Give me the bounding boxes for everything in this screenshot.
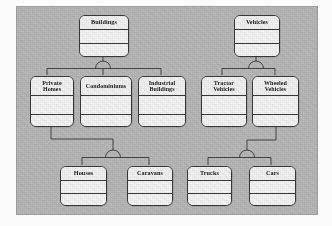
uml-class-houses[interactable]: Houses	[60, 166, 107, 206]
class-operations-compartment	[31, 115, 73, 126]
class-attributes-compartment	[80, 30, 128, 44]
class-attributes-compartment	[188, 181, 231, 194]
class-title: Condominiums	[81, 77, 131, 96]
class-attributes-compartment	[61, 181, 106, 194]
uml-class-buildings[interactable]: Buildings	[79, 15, 129, 57]
uml-class-private-homes[interactable]: PrivateHomes	[30, 76, 74, 127]
class-attributes-compartment	[235, 30, 279, 44]
uml-class-cars[interactable]: Cars	[249, 166, 296, 206]
class-title: Caravans	[128, 167, 172, 181]
uml-class-trucks[interactable]: Trucks	[187, 166, 232, 206]
uml-class-condominiums[interactable]: Condominiums	[80, 76, 132, 127]
class-attributes-compartment	[31, 96, 73, 115]
diagram-panel: Buildings Vehicles PrivateHomes Condomin…	[16, 6, 318, 215]
class-attributes-compartment	[250, 181, 295, 194]
class-attributes-compartment	[253, 96, 298, 115]
generalization-buildings	[47, 56, 161, 75]
class-operations-compartment	[80, 44, 128, 56]
class-title: IndustrialBuildings	[139, 77, 185, 96]
class-title: Trucks	[188, 167, 231, 181]
class-operations-compartment	[139, 115, 185, 126]
class-title: Buildings	[80, 16, 128, 30]
class-operations-compartment	[61, 194, 106, 205]
class-operations-compartment	[202, 115, 246, 126]
class-title: TractorVehicles	[202, 77, 246, 96]
class-title: PrivateHomes	[31, 77, 73, 96]
class-title: Cars	[250, 167, 295, 181]
uml-diagram-canvas: Buildings Vehicles PrivateHomes Condomin…	[0, 0, 332, 226]
class-attributes-compartment	[139, 96, 185, 115]
class-operations-compartment	[188, 194, 231, 205]
class-operations-compartment	[128, 194, 172, 205]
class-title: Houses	[61, 167, 106, 181]
class-attributes-compartment	[202, 96, 246, 115]
generalization-private-homes	[51, 126, 149, 165]
class-operations-compartment	[253, 115, 298, 126]
uml-class-wheeled-vehicles[interactable]: WheeledVehicles	[252, 76, 299, 127]
uml-class-vehicles[interactable]: Vehicles	[234, 15, 280, 57]
uml-class-industrial-buildings[interactable]: IndustrialBuildings	[138, 76, 186, 127]
class-operations-compartment	[81, 115, 131, 126]
class-title: Vehicles	[235, 16, 279, 30]
generalization-wheeled-vehicles	[208, 126, 276, 165]
class-attributes-compartment	[128, 181, 172, 194]
class-attributes-compartment	[81, 96, 131, 115]
generalization-vehicles	[222, 56, 275, 75]
class-title: WheeledVehicles	[253, 77, 298, 96]
uml-class-caravans[interactable]: Caravans	[127, 166, 173, 206]
uml-class-tractor-vehicles[interactable]: TractorVehicles	[201, 76, 247, 127]
class-operations-compartment	[250, 194, 295, 205]
class-operations-compartment	[235, 44, 279, 56]
